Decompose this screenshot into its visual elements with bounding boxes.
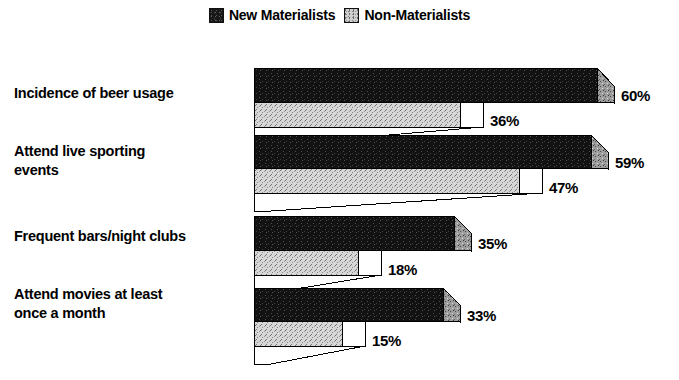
bar-side-cap: [443, 288, 460, 322]
bar-end-face: [254, 68, 614, 86]
bar-end-face: [254, 135, 608, 152]
value-label-new-materialists-beer-usage: 60%: [621, 88, 650, 103]
value-label-non-materialists-bars-night-clubs: 18%: [388, 262, 417, 277]
bar-non-materialists-bars-night-clubs: [254, 250, 381, 293]
bar-group-live-sporting-events: [254, 135, 608, 211]
bar-side-cap: [519, 168, 542, 193]
bar-body: [254, 135, 591, 168]
value-label-non-materialists-live-sporting-events: 47%: [549, 180, 578, 195]
category-label-line-2: once a month: [14, 304, 250, 323]
bar-non-materialists-live-sporting-events: [254, 168, 542, 211]
bar-bottom-face: [254, 193, 542, 211]
bar-side-cap: [342, 321, 365, 346]
bar-side-cap: [460, 102, 483, 127]
bar-group-beer-usage: [254, 68, 614, 145]
bar-body: [254, 250, 358, 275]
light-swatch-icon: [344, 8, 359, 23]
legend-label-non-materialists: Non-Materialists: [364, 8, 470, 22]
category-label-bars-night-clubs: Frequent bars/night clubs: [14, 227, 250, 246]
value-label-non-materialists-beer-usage: 36%: [490, 113, 519, 128]
legend-label-new-materialists: New Materialists: [229, 8, 336, 22]
bar-side-cap: [454, 216, 471, 251]
bar-new-materialists-beer-usage: [254, 68, 614, 103]
category-label-line-1: Attend movies at least: [14, 285, 250, 304]
bar-body: [254, 288, 443, 321]
category-label-live-sporting-events: Attend live sporting events: [14, 142, 250, 180]
bar-body: [254, 216, 454, 250]
bar-side-cap-outline: [460, 102, 483, 127]
category-label-line-1: Incidence of beer usage: [14, 84, 250, 103]
bar-side-cap: [591, 135, 608, 169]
bar-bottom-face: [254, 275, 381, 293]
bar-non-materialists-attend-movies: [254, 321, 365, 364]
category-label-line-1: Frequent bars/night clubs: [14, 227, 250, 246]
value-label-new-materialists-attend-movies: 33%: [467, 308, 496, 323]
bar-body: [254, 168, 519, 193]
legend-entry-new-materialists: New Materialists: [209, 8, 336, 23]
category-label-attend-movies: Attend movies at least once a month: [14, 285, 250, 323]
bar-group-bars-night-clubs: [254, 216, 471, 293]
value-label-new-materialists-bars-night-clubs: 35%: [478, 236, 507, 251]
bar-new-materialists-live-sporting-events: [254, 135, 608, 169]
dark-swatch-icon: [209, 8, 224, 23]
value-label-new-materialists-live-sporting-events: 59%: [615, 155, 644, 170]
bar-end-face: [254, 288, 460, 305]
bar-new-materialists-attend-movies: [254, 288, 460, 322]
bar-group-attend-movies: [254, 288, 460, 364]
chart-legend: New Materialists Non-Materialists: [0, 3, 679, 27]
category-label-beer-usage: Incidence of beer usage: [14, 84, 250, 103]
bar-body: [254, 102, 460, 127]
category-label-line-1: Attend live sporting: [14, 142, 250, 161]
value-label-non-materialists-attend-movies: 15%: [372, 333, 401, 348]
bar-end-face: [254, 216, 471, 233]
legend-entry-non-materialists: Non-Materialists: [344, 8, 470, 23]
bar-body: [254, 68, 597, 102]
bar-non-materialists-beer-usage: [254, 102, 483, 145]
category-label-line-2: events: [14, 161, 250, 180]
bar-bottom-face: [254, 127, 483, 145]
bar-side-cap: [597, 68, 614, 103]
bar-bottom-face: [254, 346, 365, 364]
bar-side-cap: [358, 250, 381, 275]
bar-body: [254, 321, 342, 346]
bar-new-materialists-bars-night-clubs: [254, 216, 471, 251]
